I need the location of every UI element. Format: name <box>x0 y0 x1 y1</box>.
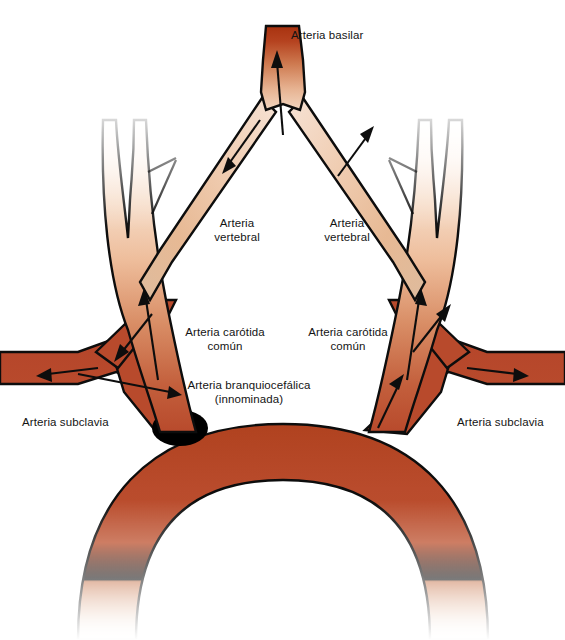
vessel-illustration <box>0 0 565 640</box>
label-arteria-subclavia-right: Arteria subclavia <box>457 415 544 429</box>
label-arteria-vertebral-left: Arteria vertebral <box>205 216 269 244</box>
label-arteria-carotida-comun-left: Arteria carótida común <box>182 325 268 353</box>
label-arteria-branquiocefalica: Arteria branquiocefálica (innominada) <box>180 378 318 406</box>
arterial-diagram-figure: Arteria basilar Arteria vertebral Arteri… <box>0 0 565 640</box>
aortic-arch <box>78 424 488 640</box>
label-arteria-carotida-comun-right: Arteria carótida común <box>305 325 391 353</box>
right-vertebral-artery <box>289 98 425 300</box>
left-vertebral-artery <box>140 98 276 300</box>
label-arteria-basilar: Arteria basilar <box>291 28 363 42</box>
label-arteria-subclavia-left: Arteria subclavia <box>22 415 109 429</box>
label-arteria-vertebral-right: Arteria vertebral <box>315 216 379 244</box>
arrow-vertebral-right-up <box>338 126 374 176</box>
